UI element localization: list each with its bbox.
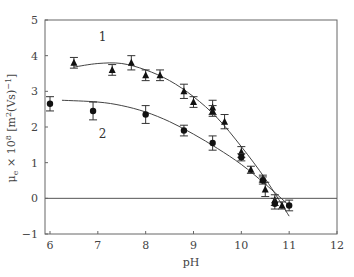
x-tick-label: 8 [142,239,149,252]
circle-marker [286,202,292,208]
triangle-marker [247,166,254,173]
plot-border [45,20,337,234]
triangle-marker [142,71,149,78]
x-tick-label: 10 [234,239,248,252]
data-point-series-1 [278,201,286,209]
circle-marker [260,177,266,183]
circle-marker [238,154,244,160]
data-point-series-2 [271,198,279,209]
circle-marker [90,108,96,114]
y-tick-label: 4 [31,50,38,63]
triangle-marker [109,66,116,73]
y-tick-label: 3 [31,85,38,98]
data-point-series-2 [209,136,217,150]
circle-marker [181,127,187,133]
data-point-series-1 [221,115,229,129]
x-tick-label: 6 [47,239,54,252]
circle-marker [209,140,215,146]
chart: 6789101112−1012345 12 pH μe × 108 [m2(Vs… [0,0,354,277]
x-tick-label: 11 [282,239,296,252]
y-tick-label: −1 [22,228,38,241]
data-point-series-1 [142,70,150,81]
plot-frame [45,20,337,234]
series-label-2: 2 [99,127,107,141]
x-axis-title: pH [183,256,200,269]
y-axis-title: μe × 108 [m2(Vs)−1] [4,74,20,183]
data-point-series-1 [156,70,164,81]
x-tick-label: 7 [94,239,101,252]
y-tick-label: 5 [31,14,38,27]
circle-marker [142,111,148,117]
triangle-marker [70,59,77,66]
fit-curves [62,63,289,216]
triangle-marker [128,59,135,66]
circle-marker [272,200,278,206]
series-labels: 12 [99,30,107,140]
circle-marker [47,101,53,107]
y-tick-label: 0 [31,192,38,205]
fit-curve-series-2 [62,100,289,205]
data-points [46,56,293,211]
data-point-series-2 [180,125,188,136]
data-point-series-2 [285,200,293,211]
y-tick-label: 2 [31,121,38,134]
x-tick-label: 12 [330,239,344,252]
data-point-series-2 [89,102,97,120]
series-label-1: 1 [99,30,107,44]
data-point-series-2 [142,106,150,124]
data-point-series-1 [108,65,116,76]
triangle-marker [221,118,228,125]
x-tick-label: 9 [190,239,197,252]
y-tick-label: 1 [31,157,38,170]
data-point-series-1 [127,56,135,70]
triangle-marker [278,201,285,208]
data-point-series-2 [46,97,54,111]
